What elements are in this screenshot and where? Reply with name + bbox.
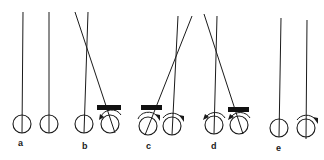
label-a: a: [18, 138, 24, 148]
ball-d-right: [230, 116, 248, 134]
rotation-arrow-icon-b: [101, 110, 121, 117]
blocking-bar-b: [97, 105, 121, 110]
panel-d: d: [203, 14, 250, 151]
diagram-canvas: a b c d: [0, 0, 324, 160]
panel-a: a: [13, 12, 58, 148]
rotation-arrow-icon-c-left: [138, 112, 157, 119]
label-c: c: [146, 141, 151, 151]
label-b: b: [82, 141, 88, 151]
blocking-bar-d: [228, 107, 249, 112]
label-d: d: [211, 141, 217, 151]
label-e: e: [276, 143, 281, 153]
panel-b: b: [75, 12, 121, 151]
string-e-right: [306, 20, 307, 139]
ball-c-left: [139, 117, 157, 135]
panel-c: c: [138, 16, 192, 151]
blocking-bar-c: [141, 105, 162, 110]
panel-e: e: [270, 18, 318, 153]
pendulum-diagram: a b c d: [0, 0, 324, 160]
